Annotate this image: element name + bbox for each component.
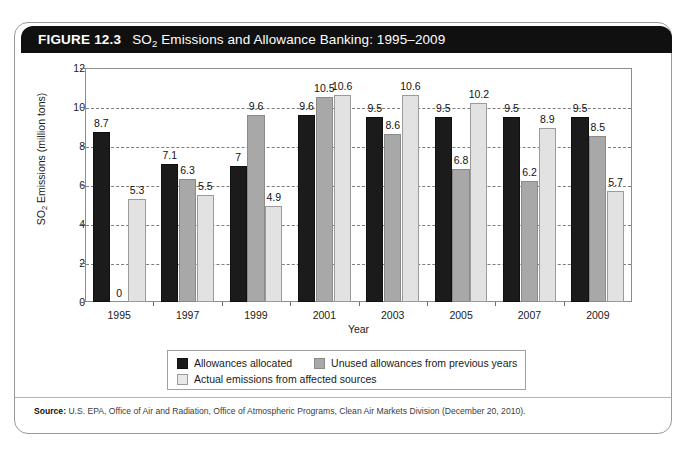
bar-group: 9.58.55.7 bbox=[564, 68, 632, 302]
x-tick-mark bbox=[495, 302, 496, 306]
legend-label-allowances-allocated: Allowances allocated bbox=[194, 357, 292, 369]
legend-item-unused-allowances: Unused allowances from previous years bbox=[314, 357, 517, 369]
y-axis-ticks: 024681012 bbox=[52, 68, 85, 302]
legend-swatch-icon-unused-allowances bbox=[314, 358, 325, 369]
bar-2001-series-0 bbox=[298, 115, 315, 302]
bar-2009-series-2 bbox=[607, 191, 624, 302]
legend-row-1: Allowances allocated Unused allowances f… bbox=[177, 356, 516, 370]
bar-group: 8.705.3 bbox=[85, 68, 153, 302]
bar-2001-series-1 bbox=[316, 97, 333, 302]
bar-value-label: 5.5 bbox=[198, 180, 213, 192]
legend-item-allowances-allocated: Allowances allocated bbox=[177, 357, 292, 369]
bar-value-label: 10.2 bbox=[469, 88, 489, 100]
bar-value-label: 9.6 bbox=[299, 100, 314, 112]
bar-1999-series-2 bbox=[265, 206, 282, 302]
bar-value-label: 9.6 bbox=[249, 100, 264, 112]
bar-value-label: 9.5 bbox=[504, 102, 519, 114]
figure-title-prefix: SO bbox=[132, 32, 152, 47]
bar-value-label: 6.8 bbox=[454, 154, 469, 166]
legend-label-unused-allowances: Unused allowances from previous years bbox=[331, 357, 517, 369]
x-axis-title: Year bbox=[85, 323, 632, 335]
bar-1995-series-2 bbox=[128, 199, 145, 302]
bar-1999-series-1 bbox=[247, 115, 264, 302]
bar-2005-series-1 bbox=[452, 169, 469, 302]
x-tick-label-2007: 2007 bbox=[518, 309, 541, 321]
figure-number: FIGURE 12.3 bbox=[38, 32, 121, 47]
source-text: U.S. EPA, Office of Air and Radiation, O… bbox=[68, 406, 525, 416]
bar-group: 79.64.9 bbox=[222, 68, 290, 302]
x-tick-label-1995: 1995 bbox=[108, 309, 131, 321]
y-axis-title-prefix: SO bbox=[35, 210, 47, 225]
bars-layer: 8.705.37.16.35.579.64.99.610.510.69.58.6… bbox=[85, 68, 632, 302]
bar-2003-series-0 bbox=[366, 117, 383, 302]
chart-region: SO2 Emissions (million tons) 024681012 8… bbox=[14, 53, 672, 343]
bar-value-label: 5.3 bbox=[130, 184, 145, 196]
source-label: Source: bbox=[34, 406, 66, 416]
figure-title-subscript: 2 bbox=[152, 38, 157, 49]
bar-2005-series-2 bbox=[470, 103, 487, 302]
x-tick-label-2009: 2009 bbox=[586, 309, 609, 321]
bar-2005-series-0 bbox=[435, 117, 452, 302]
bar-1997-series-1 bbox=[179, 179, 196, 302]
x-tick-label-2003: 2003 bbox=[381, 309, 404, 321]
bar-2003-series-2 bbox=[402, 95, 419, 302]
bar-value-label: 7.1 bbox=[162, 149, 177, 161]
bar-2009-series-1 bbox=[589, 136, 606, 302]
legend-swatch-icon-actual-emissions bbox=[177, 374, 188, 385]
x-tick-label-1999: 1999 bbox=[244, 309, 267, 321]
bar-group: 9.56.28.9 bbox=[495, 68, 563, 302]
chart-legend: Allowances allocated Unused allowances f… bbox=[167, 350, 526, 390]
bar-value-label: 9.5 bbox=[573, 102, 588, 114]
bar-value-label: 8.9 bbox=[540, 113, 555, 125]
x-tick-label-2005: 2005 bbox=[449, 309, 472, 321]
x-tick-mark bbox=[564, 302, 565, 306]
bar-value-label: 9.5 bbox=[436, 102, 451, 114]
bar-value-label: 0 bbox=[116, 287, 122, 299]
x-tick-mark bbox=[222, 302, 223, 306]
bar-1999-series-0 bbox=[230, 166, 247, 303]
bar-2007-series-2 bbox=[539, 128, 556, 302]
bar-2009-series-0 bbox=[571, 117, 588, 302]
bar-value-label: 10.6 bbox=[332, 80, 352, 92]
legend-item-actual-emissions: Actual emissions from affected sources bbox=[177, 373, 376, 385]
bar-1997-series-2 bbox=[197, 195, 214, 302]
bar-value-label: 6.3 bbox=[180, 164, 195, 176]
y-axis-title: SO2 Emissions (million tons) bbox=[35, 74, 47, 244]
bar-value-label: 8.6 bbox=[385, 119, 400, 131]
x-tick-mark bbox=[290, 302, 291, 306]
bar-value-label: 7 bbox=[235, 151, 241, 163]
bar-value-label: 6.2 bbox=[522, 166, 537, 178]
x-tick-mark bbox=[427, 302, 428, 306]
x-tick-mark bbox=[153, 302, 154, 306]
bar-group: 9.58.610.6 bbox=[359, 68, 427, 302]
source-note: Source: U.S. EPA, Office of Air and Radi… bbox=[34, 406, 526, 416]
bar-group: 9.610.510.6 bbox=[290, 68, 358, 302]
bar-group: 7.16.35.5 bbox=[153, 68, 221, 302]
x-tick-label-1997: 1997 bbox=[176, 309, 199, 321]
bar-2007-series-0 bbox=[503, 117, 520, 302]
bar-value-label: 4.9 bbox=[266, 191, 281, 203]
legend-label-actual-emissions: Actual emissions from affected sources bbox=[194, 373, 376, 385]
legend-swatch-icon-allowances-allocated bbox=[177, 358, 188, 369]
figure-title-suffix: Emissions and Allowance Banking: 1995–20… bbox=[157, 32, 445, 47]
bar-2007-series-1 bbox=[521, 181, 538, 302]
source-divider bbox=[15, 397, 671, 398]
x-axis-ticks: 19951997199920012003200520072009 bbox=[85, 305, 632, 321]
figure-header-bar: FIGURE 12.3 SO2 Emissions and Allowance … bbox=[21, 26, 672, 53]
bar-1997-series-0 bbox=[161, 164, 178, 302]
bar-value-label: 10.6 bbox=[400, 80, 420, 92]
y-axis-title-suffix: Emissions (million tons) bbox=[35, 93, 47, 206]
figure-title: SO2 Emissions and Allowance Banking: 199… bbox=[132, 32, 445, 47]
bar-1995-series-0 bbox=[93, 132, 110, 302]
legend-row-2: Actual emissions from affected sources bbox=[177, 372, 516, 386]
x-tick-mark bbox=[359, 302, 360, 306]
bar-value-label: 9.5 bbox=[368, 102, 383, 114]
bar-group: 9.56.810.2 bbox=[427, 68, 495, 302]
y-tick-mark bbox=[80, 302, 85, 303]
bar-value-label: 8.7 bbox=[94, 117, 109, 129]
x-tick-label-2001: 2001 bbox=[313, 309, 336, 321]
bar-value-label: 5.7 bbox=[608, 176, 623, 188]
bar-2003-series-1 bbox=[384, 134, 401, 302]
bar-2001-series-2 bbox=[334, 95, 351, 302]
bar-value-label: 8.5 bbox=[591, 121, 606, 133]
